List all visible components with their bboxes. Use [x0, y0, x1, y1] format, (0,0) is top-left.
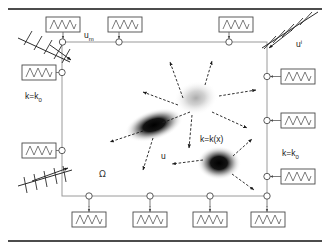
- schematic-svg: um ui k=k0 k=k0 k=k(x) Ω u: [0, 0, 330, 250]
- figure-container: um ui k=k0 k=k0 k=k(x) Ω u: [0, 0, 330, 250]
- label-conductivity-right-base: k=k: [282, 148, 296, 158]
- node-circle[interactable]: [264, 193, 270, 199]
- node-circle[interactable]: [264, 173, 270, 179]
- node-circle[interactable]: [86, 193, 92, 199]
- node-circle[interactable]: [59, 69, 65, 75]
- label-conductivity-interior: k=k(x): [200, 134, 224, 144]
- node-circle[interactable]: [147, 193, 153, 199]
- node-circle[interactable]: [264, 117, 270, 123]
- label-domain-symbol: Ω: [99, 169, 106, 179]
- node-circle[interactable]: [116, 39, 122, 45]
- node-circle[interactable]: [226, 39, 232, 45]
- node-circle[interactable]: [59, 39, 65, 45]
- node-circle[interactable]: [264, 73, 270, 79]
- label-measured-boundary-sub: m: [89, 36, 94, 42]
- label-field-variable: u: [161, 151, 166, 161]
- label-conductivity-left-base: k=k: [25, 91, 39, 101]
- node-circle[interactable]: [59, 147, 65, 153]
- node-circle[interactable]: [207, 193, 213, 199]
- label-incident-boundary-sup: i: [301, 39, 302, 45]
- dark-round-blob: [197, 146, 241, 180]
